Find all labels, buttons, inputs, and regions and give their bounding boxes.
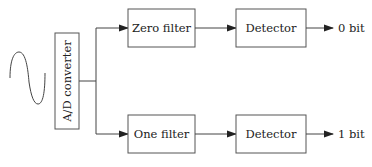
ad-converter-label: A/D converter <box>60 40 74 123</box>
one-filter-label: One filter <box>134 127 190 141</box>
zero-filter-label: Zero filter <box>132 21 192 35</box>
ad-converter-block: A/D converter <box>55 33 79 129</box>
sine-wave-icon <box>10 52 45 104</box>
detector-top-label: Detector <box>246 21 297 35</box>
detector-block-bottom: Detector <box>236 115 306 153</box>
detector-block-top: Detector <box>236 9 306 47</box>
output-0-bit-label: 0 bit <box>338 21 365 35</box>
zero-filter-block: Zero filter <box>128 9 195 47</box>
output-1-bit-label: 1 bit <box>338 127 365 141</box>
one-filter-block: One filter <box>128 115 195 153</box>
detector-bottom-label: Detector <box>246 127 297 141</box>
block-diagram: A/D converter Zero filter Detector 0 bit… <box>0 0 372 167</box>
